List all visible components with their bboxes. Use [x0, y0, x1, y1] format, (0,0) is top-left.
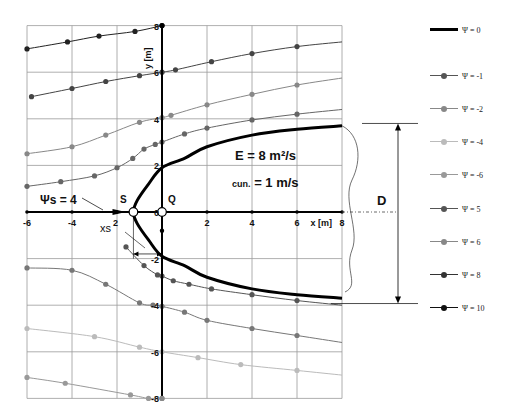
- data-point-marker: [24, 46, 29, 51]
- legend-label: Ψ = 6: [462, 238, 480, 247]
- data-point-marker: [92, 173, 97, 178]
- x-tick-mark: [205, 210, 209, 214]
- data-point-marker: [29, 94, 34, 99]
- data-point-marker: [249, 51, 254, 56]
- data-point-marker: [103, 282, 108, 287]
- y-tick-label: 6: [154, 68, 159, 78]
- data-point-marker: [137, 300, 142, 305]
- y-tick-label: -8: [151, 394, 159, 404]
- annotation-c: cun. = 1 m/s: [232, 175, 299, 190]
- data-point-marker: [249, 326, 254, 331]
- x-tick-mark: [250, 210, 254, 214]
- y-tick-label: -6: [151, 348, 159, 358]
- y-tick-label: 8: [154, 22, 159, 32]
- data-point-marker: [69, 268, 74, 273]
- data-point-marker: [204, 126, 209, 131]
- data-point-marker: [24, 265, 29, 270]
- data-point-marker: [103, 133, 108, 138]
- x-tick-label: 2: [204, 218, 209, 228]
- x-tick-label: 2: [113, 218, 118, 228]
- y-tick-label: 4: [154, 115, 159, 125]
- data-point-marker: [63, 381, 68, 386]
- data-point-marker: [249, 92, 254, 97]
- y-tick-label: -4: [151, 301, 159, 311]
- data-point-marker: [123, 244, 128, 249]
- x-tick-label: -4: [68, 218, 76, 228]
- legend-item: Ψ = 0: [430, 23, 480, 37]
- y-tick-label: 0: [154, 208, 159, 218]
- data-point-marker: [58, 179, 63, 184]
- arrow-up-icon: [395, 123, 401, 130]
- x-tick-mark: [25, 210, 29, 214]
- streamline-path: [32, 42, 343, 97]
- data-point-marker: [238, 362, 243, 367]
- y-axis-top-marker: [159, 23, 164, 28]
- annotation-e: E = 8 m²/s: [235, 148, 296, 163]
- data-point-marker: [141, 263, 146, 268]
- data-point-marker: [249, 292, 254, 297]
- data-point-marker: [171, 278, 176, 283]
- data-point-marker: [294, 44, 299, 49]
- data-point-marker: [128, 392, 133, 397]
- x-tick-label: -6: [23, 218, 31, 228]
- y-tick-label: -2: [151, 255, 159, 265]
- annotation-psi-s: Ψs = 4: [40, 193, 77, 207]
- legend-swatch-icon: [430, 104, 458, 114]
- legend-swatch-icon: [430, 270, 458, 280]
- y-axis-marker: [160, 228, 164, 232]
- streamline--6: [24, 375, 164, 401]
- x-tick-label: 4: [249, 218, 254, 228]
- data-point-marker: [69, 144, 74, 149]
- x-tick-mark: [295, 210, 299, 214]
- label-q: Q: [168, 194, 176, 205]
- legend-item: Ψ = -1: [430, 69, 483, 83]
- legend-swatch-icon: [430, 204, 458, 214]
- legend-item: Ψ = -4: [430, 135, 483, 149]
- data-point-marker: [65, 39, 70, 44]
- y-axis-label: y [m]: [143, 47, 153, 69]
- data-point-marker: [155, 272, 160, 277]
- x-tick-label: 8: [339, 218, 344, 228]
- data-point-marker: [137, 73, 142, 78]
- streamline-path: [27, 377, 162, 398]
- velocity-profile-curve: [342, 126, 358, 292]
- x-tick-label: 6: [294, 218, 299, 228]
- label-s: S: [120, 194, 127, 205]
- legend-label: Ψ = 10: [462, 304, 484, 313]
- data-point-marker: [103, 79, 108, 84]
- data-point-marker: [69, 86, 74, 91]
- legend-label: Ψ = -1: [462, 72, 483, 81]
- streamline-8: [29, 42, 342, 99]
- data-point-marker: [92, 334, 97, 339]
- label-xs: xs: [100, 222, 112, 234]
- data-point-marker: [168, 113, 173, 118]
- data-point-marker: [294, 368, 299, 373]
- legend-swatch-icon: [430, 71, 458, 81]
- streamline-10: [24, 23, 164, 52]
- data-point-marker: [182, 131, 187, 136]
- legend-item: Ψ = 8: [430, 268, 480, 282]
- arrow-down-icon: [395, 297, 401, 304]
- legend-item: Ψ = -2: [430, 102, 483, 116]
- psi-s-leader-line: [82, 198, 103, 210]
- legend-swatch-icon: [430, 170, 458, 180]
- data-point-marker: [141, 146, 146, 151]
- data-point-marker: [24, 184, 29, 189]
- data-point-marker: [249, 117, 254, 122]
- data-point-marker: [114, 165, 119, 170]
- legend-swatch-icon: [430, 25, 458, 35]
- data-point-marker: [294, 82, 299, 87]
- data-point-marker: [209, 59, 214, 64]
- legend-item: Ψ = 6: [430, 235, 480, 249]
- y-tick-label: 2: [154, 161, 159, 171]
- data-point-marker: [209, 286, 214, 291]
- legend-item: Ψ = 10: [430, 301, 484, 315]
- data-point-marker: [173, 67, 178, 72]
- x-axis-label: x [m]: [311, 218, 333, 228]
- legend-label: Ψ = -2: [462, 105, 483, 114]
- data-point-marker: [96, 33, 101, 38]
- legend-item: Ψ = 5: [430, 202, 480, 216]
- data-point-marker: [186, 282, 191, 287]
- data-point-marker: [294, 112, 299, 117]
- legend-label: Ψ = -4: [462, 138, 483, 147]
